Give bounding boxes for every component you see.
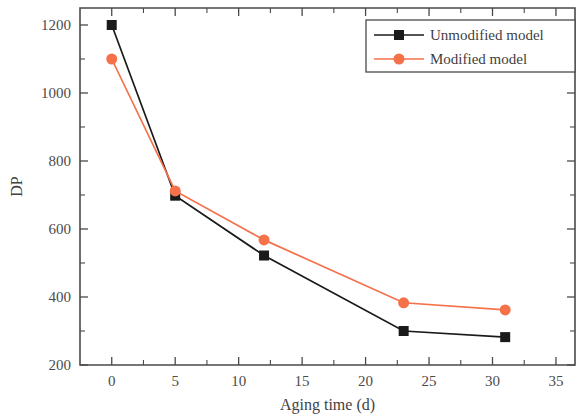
y-tick-label: 200 bbox=[49, 357, 72, 373]
data-point-marker bbox=[500, 332, 510, 342]
data-point-marker bbox=[259, 251, 269, 261]
x-tick-label: 20 bbox=[358, 373, 373, 389]
y-axis-tick-labels: 20040060080010001200 bbox=[41, 17, 71, 373]
series-modified bbox=[106, 54, 510, 316]
data-point-marker bbox=[399, 326, 409, 336]
x-tick-label: 25 bbox=[422, 373, 437, 389]
data-point-marker bbox=[107, 20, 117, 30]
data-point-marker bbox=[500, 304, 511, 315]
x-tick-label: 35 bbox=[548, 373, 563, 389]
x-tick-label: 5 bbox=[171, 373, 179, 389]
x-tick-label: 15 bbox=[295, 373, 310, 389]
y-axis-ticks bbox=[80, 25, 575, 365]
x-tick-label: 30 bbox=[485, 373, 500, 389]
y-tick-label: 800 bbox=[49, 153, 72, 169]
chart-legend: Unmodified modelModified model bbox=[366, 20, 575, 72]
line-chart: 05101520253035 20040060080010001200 Agin… bbox=[0, 0, 582, 418]
y-tick-label: 600 bbox=[49, 221, 72, 237]
legend-label: Unmodified model bbox=[430, 27, 544, 43]
data-point-marker bbox=[106, 54, 117, 65]
y-tick-label: 1200 bbox=[41, 17, 71, 33]
chart-container: 05101520253035 20040060080010001200 Agin… bbox=[0, 0, 582, 418]
data-point-marker bbox=[398, 297, 409, 308]
y-axis-title: DP bbox=[8, 176, 25, 197]
x-axis-title: Aging time (d) bbox=[280, 396, 375, 414]
data-point-marker bbox=[259, 234, 270, 245]
x-axis-tick-labels: 05101520253035 bbox=[108, 373, 563, 389]
legend-label: Modified model bbox=[430, 51, 527, 67]
y-tick-label: 1000 bbox=[41, 85, 71, 101]
x-tick-label: 0 bbox=[108, 373, 116, 389]
data-point-marker bbox=[170, 185, 181, 196]
legend-marker bbox=[394, 54, 405, 65]
legend-marker bbox=[394, 30, 404, 40]
y-tick-label: 400 bbox=[49, 289, 72, 305]
x-tick-label: 10 bbox=[231, 373, 246, 389]
